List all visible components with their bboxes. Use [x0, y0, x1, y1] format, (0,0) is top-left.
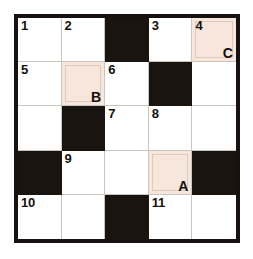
- grid-cell-block: [62, 106, 106, 150]
- cell-marker: A: [178, 179, 188, 194]
- grid-cell-block: [192, 151, 236, 195]
- cell-marker: C: [223, 46, 233, 61]
- grid-cell[interactable]: [192, 62, 236, 106]
- cell-number: 9: [65, 151, 72, 166]
- grid-cell[interactable]: A: [149, 151, 193, 195]
- cell-number: 3: [152, 18, 159, 33]
- grid-cell-block: [105, 18, 149, 62]
- grid-cell[interactable]: 1: [18, 18, 62, 62]
- grid-cell[interactable]: 4C: [192, 18, 236, 62]
- grid-cell[interactable]: [62, 195, 106, 239]
- grid-cell[interactable]: 5: [18, 62, 62, 106]
- cell-number: 10: [21, 195, 35, 210]
- cell-number: 8: [152, 106, 159, 121]
- crossword-puzzle: 1234C5B6789A1011: [0, 0, 253, 259]
- grid-cell[interactable]: 8: [149, 106, 193, 150]
- cell-number: 2: [65, 18, 72, 33]
- cell-number: 5: [21, 62, 28, 77]
- grid-cell[interactable]: 6: [105, 62, 149, 106]
- cell-number: 1: [21, 18, 28, 33]
- cell-marker: B: [91, 90, 101, 105]
- cell-number: 11: [152, 195, 165, 210]
- grid-cell-block: [18, 151, 62, 195]
- cell-number: 6: [108, 62, 115, 77]
- grid-cell[interactable]: [192, 195, 236, 239]
- crossword-grid: 1234C5B6789A1011: [14, 14, 240, 243]
- grid-cell[interactable]: B: [62, 62, 106, 106]
- grid-cell[interactable]: 11: [149, 195, 193, 239]
- grid-cell[interactable]: 2: [62, 18, 106, 62]
- grid-cell[interactable]: 10: [18, 195, 62, 239]
- grid-cell[interactable]: 7: [105, 106, 149, 150]
- grid-cell-block: [105, 195, 149, 239]
- grid-cell-block: [149, 62, 193, 106]
- grid-cell[interactable]: 9: [62, 151, 106, 195]
- grid-cell[interactable]: 3: [149, 18, 193, 62]
- grid-cell[interactable]: [192, 106, 236, 150]
- cell-number: 7: [108, 106, 115, 121]
- grid-cell[interactable]: [18, 106, 62, 150]
- grid-cell[interactable]: [105, 151, 149, 195]
- cell-number: 4: [195, 18, 202, 33]
